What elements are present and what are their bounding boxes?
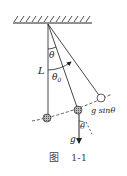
ceiling xyxy=(13,16,92,23)
pendulum-diagram: θ L θ0 g sinθ θ g 图 1-1 xyxy=(0,0,127,176)
bob-max xyxy=(97,94,105,102)
g-label: g xyxy=(70,134,76,144)
bob-equilibrium xyxy=(43,114,51,122)
figure-caption-number: 1-1 xyxy=(71,152,87,163)
g-sin-label: g sinθ xyxy=(91,106,115,115)
max-string xyxy=(48,24,101,98)
theta-bottom-label: θ xyxy=(80,122,85,131)
theta0-label: θ0 xyxy=(52,72,61,83)
length-label: L xyxy=(37,65,45,76)
theta-arc xyxy=(48,47,56,49)
theta-label: θ xyxy=(49,50,55,60)
tangent-dash xyxy=(86,122,92,134)
bob-current xyxy=(74,106,82,114)
figure-caption-prefix: 图 xyxy=(49,152,59,163)
theta0-arc xyxy=(48,62,71,70)
